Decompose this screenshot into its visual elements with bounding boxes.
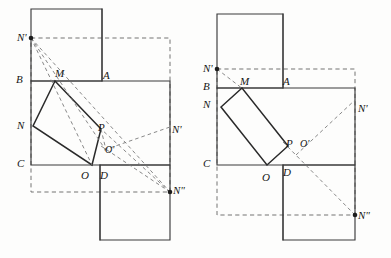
right-label-n-prime-right: N' <box>358 103 368 114</box>
left-bottom-rectangle <box>100 165 170 240</box>
left-label-n-double: N" <box>173 185 185 196</box>
left-label-p: P <box>98 122 105 133</box>
right-vertex-dot-ndouble <box>353 213 358 218</box>
geometry-canvas <box>0 0 391 258</box>
right-label-o: O <box>262 172 270 183</box>
left-label-m: M <box>55 68 64 79</box>
right-label-o-prime: O' <box>300 139 309 149</box>
left-label-d: D <box>100 170 108 181</box>
right-label-n: N <box>203 99 210 110</box>
left-label-n: N <box>17 120 24 131</box>
left-label-b: B <box>16 74 23 85</box>
right-label-d: D <box>283 167 291 178</box>
right-ray-p-to-ndouble <box>283 142 355 215</box>
right-label-c: C <box>203 158 210 169</box>
left-vertex-dot-ndouble <box>168 190 173 195</box>
geometry-figure: N' B M A N P N' O' C O D N" N' B M A N N… <box>0 0 391 258</box>
right-diagram-group <box>215 14 358 240</box>
right-label-a: A <box>283 76 290 87</box>
right-label-p: P <box>286 138 293 149</box>
right-bottom-rectangle <box>283 165 355 240</box>
left-quadrilateral-mnop <box>33 81 101 165</box>
right-top-rectangle <box>217 14 283 88</box>
right-middle-rectangle <box>217 88 355 165</box>
left-vertex-dot-nprime <box>29 36 34 41</box>
left-label-a: A <box>103 70 110 81</box>
right-quadrilateral-mnop <box>221 88 288 165</box>
left-top-rectangle <box>31 9 102 81</box>
left-ray-ndouble-to-p <box>101 129 170 192</box>
right-label-b: B <box>203 81 210 92</box>
right-label-n-double: N" <box>358 210 370 221</box>
left-label-n-prime-top: N' <box>17 32 27 43</box>
left-label-o-prime: O' <box>105 145 114 155</box>
right-vertex-dot-nprime <box>215 67 220 72</box>
left-ray-nprime-to-oprime <box>31 38 107 152</box>
left-label-o: O <box>81 170 89 181</box>
left-label-n-prime-right: N' <box>172 124 182 135</box>
left-label-c: C <box>17 158 24 169</box>
left-ray-nprime-to-o <box>31 38 92 165</box>
right-label-n-prime-top: N' <box>203 63 213 74</box>
right-label-m: M <box>240 76 249 87</box>
